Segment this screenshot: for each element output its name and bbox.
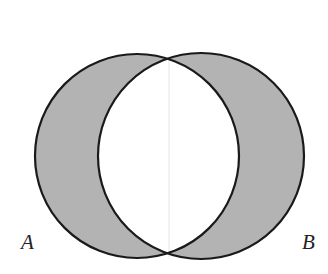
set-b-label: B <box>302 230 315 255</box>
set-a-label: A <box>21 230 34 255</box>
venn-diagram <box>0 0 328 274</box>
